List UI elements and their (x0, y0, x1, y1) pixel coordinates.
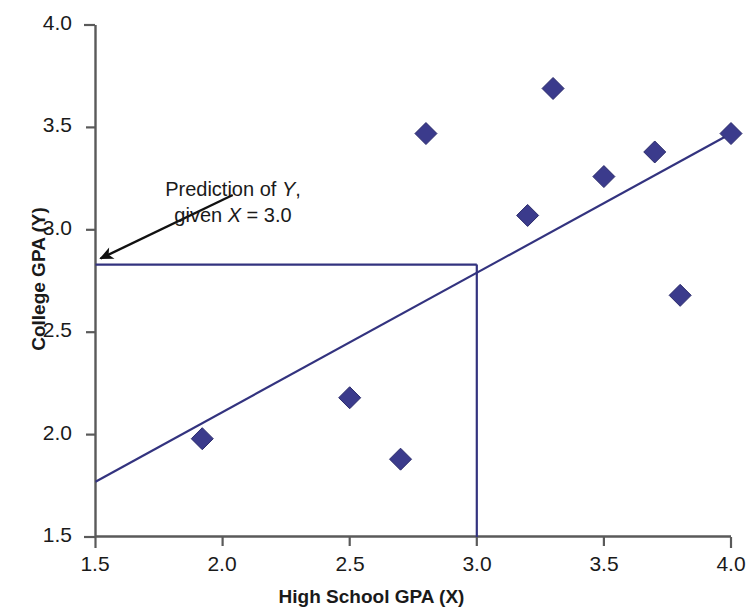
prediction-annotation: Prediction of Y, given X = 3.0 (118, 177, 348, 228)
x-tick-label: 4.0 (696, 552, 750, 576)
y-tick-label: 3.5 (14, 113, 72, 137)
x-tick-label: 2.5 (315, 552, 385, 576)
x-tick-label: 3.5 (569, 552, 639, 576)
annotation-line2-pre: given (174, 204, 227, 226)
data-point (191, 428, 213, 450)
data-points-group (191, 77, 742, 470)
y-axis-title: College GPA (Y) (28, 154, 50, 404)
annotation-line2-var: X (228, 204, 241, 226)
data-point (415, 123, 437, 145)
data-point (720, 123, 742, 145)
annotation-line-2: given X = 3.0 (118, 203, 348, 229)
x-axis-ticks (96, 537, 732, 548)
x-tick-label: 3.0 (442, 552, 512, 576)
data-point (339, 387, 361, 409)
annotation-line1-post: , (295, 178, 301, 200)
data-point (390, 448, 412, 470)
annotation-line2-post: = 3.0 (241, 204, 292, 226)
data-point (593, 166, 615, 188)
axes-group (84, 25, 731, 548)
annotation-line1-var: Y (282, 178, 295, 200)
data-point (517, 204, 539, 226)
y-tick-label: 4.0 (14, 11, 72, 35)
data-point (644, 141, 666, 163)
data-point (542, 77, 564, 99)
y-tick-label: 1.5 (14, 523, 72, 547)
y-axis-ticks (84, 25, 95, 537)
prediction-lines (96, 265, 477, 537)
annotation-line-1: Prediction of Y, (118, 177, 348, 203)
x-tick-label: 2.0 (187, 552, 257, 576)
annotation-line1-pre: Prediction of (165, 178, 282, 200)
y-tick-label: 2.0 (14, 421, 72, 445)
data-point (669, 284, 691, 306)
x-tick-label: 1.5 (60, 552, 130, 576)
x-axis-title: High School GPA (X) (0, 586, 743, 608)
